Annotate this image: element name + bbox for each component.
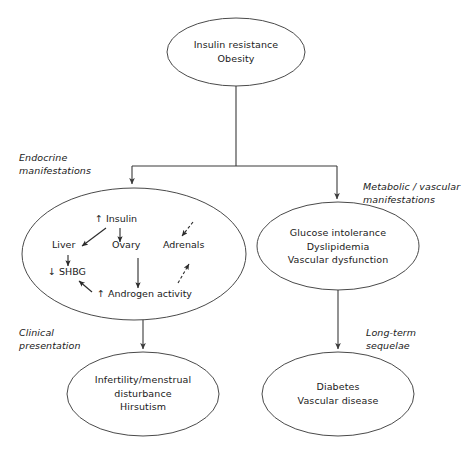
- inner-arrow-androgen-to-shbg: [79, 281, 92, 292]
- section-label-clinical-line1: Clinical: [19, 327, 81, 340]
- section-label-metabolic: Metabolic / vascular manifestations: [363, 181, 460, 206]
- node-metabolic-label: Glucose intolerance Dyslipidemia Vascula…: [238, 226, 438, 267]
- node-clinical-line2: disturbance: [43, 387, 243, 401]
- inner-label-adrenals: Adrenals: [163, 239, 204, 251]
- section-label-metabolic-line2: manifestations: [363, 194, 460, 207]
- node-clinical-line1: Infertility/menstrual: [43, 373, 243, 387]
- diagram-page: Insulin resistance Obesity Glucose intol…: [0, 0, 472, 454]
- inner-label-shbg: ↓ SHBG: [48, 266, 86, 278]
- node-metabolic-line1: Glucose intolerance: [238, 226, 438, 240]
- inner-label-insulin: ↑ Insulin: [95, 213, 137, 225]
- node-clinical-label: Infertility/menstrual disturbance Hirsut…: [43, 373, 243, 414]
- node-metabolic-line2: Dyslipidemia: [238, 240, 438, 254]
- inner-label-androgen-activity: ↑ Androgen activity: [97, 288, 192, 300]
- inner-arrow-dashed-adrenals-to-androgen: [178, 264, 189, 283]
- node-sequelae-label: Diabetes Vascular disease: [238, 380, 438, 407]
- section-label-sequelae-line2: sequelae: [366, 340, 416, 353]
- section-label-clinical: Clinical presentation: [19, 327, 81, 352]
- node-endocrine-ellipse: [22, 188, 246, 320]
- inner-label-ovary: Ovary: [112, 239, 140, 251]
- node-root-line1: Insulin resistance: [136, 38, 336, 52]
- section-label-clinical-line2: presentation: [19, 340, 81, 353]
- inner-arrow-dashed-to-adrenals: [182, 222, 193, 236]
- section-label-endocrine-line1: Endocrine: [19, 152, 91, 165]
- section-label-sequelae: Long-term sequelae: [366, 327, 416, 352]
- node-sequelae-line2: Vascular disease: [238, 394, 438, 408]
- node-root-line2: Obesity: [136, 52, 336, 66]
- node-sequelae-line1: Diabetes: [238, 380, 438, 394]
- node-metabolic-line3: Vascular dysfunction: [238, 253, 438, 267]
- node-root-label: Insulin resistance Obesity: [136, 38, 336, 65]
- section-label-sequelae-line1: Long-term: [366, 327, 416, 340]
- inner-label-liver: Liver: [52, 239, 75, 251]
- section-label-metabolic-line1: Metabolic / vascular: [363, 181, 460, 194]
- node-clinical-line3: Hirsutism: [43, 400, 243, 414]
- section-label-endocrine: Endocrine manifestations: [19, 152, 91, 177]
- inner-arrow-insulin-to-liver: [82, 228, 106, 246]
- section-label-endocrine-line2: manifestations: [19, 165, 91, 178]
